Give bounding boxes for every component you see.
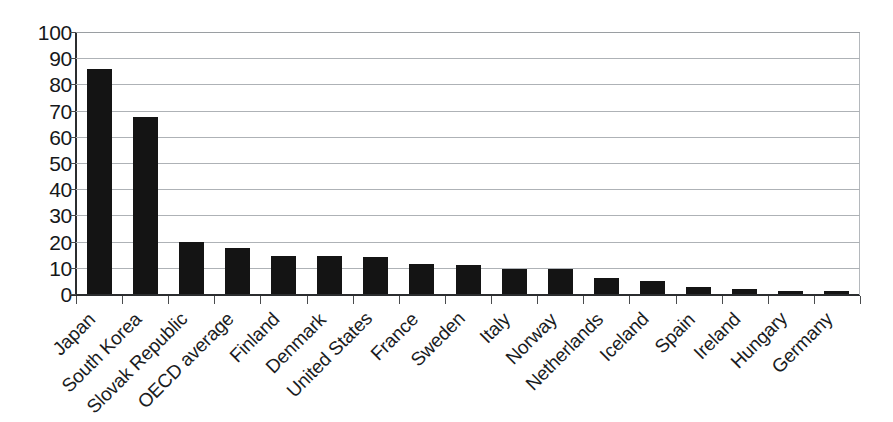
bar [87,69,112,294]
bar [271,256,296,294]
x-axis-tick-mark [76,296,77,304]
y-axis-tick-mark [70,215,76,216]
y-axis-tick-label: 90 [4,48,72,69]
x-axis-category-label: Sweden [406,308,469,371]
x-axis-tick-mark [814,296,815,304]
x-axis-category-label: Iceland [595,309,653,367]
bar [456,265,481,294]
plot-area [76,32,860,294]
y-axis-tick-mark [70,163,76,164]
y-axis: 1009080706050403020100 [0,0,72,422]
bar [502,269,527,294]
y-axis-tick-label: 0 [4,284,72,305]
bar [548,269,573,294]
x-axis-tick-mark [307,296,308,304]
gridline [76,32,860,33]
bar [409,264,434,294]
y-axis-tick-mark [70,58,76,59]
gridline [76,189,860,190]
bar-chart: 1009080706050403020100 JapanSouth KoreaS… [0,0,893,422]
y-axis-tick-label: 20 [4,231,72,252]
y-axis-tick-mark [70,32,76,33]
bar [179,242,204,294]
bar [594,278,619,294]
x-axis-category-label: United States [283,308,377,402]
x-axis-tick-mark [629,296,630,304]
x-axis-category-label: Germany [768,309,838,379]
gridline [76,163,860,164]
x-axis-tick-mark [445,296,446,304]
x-axis-tick-mark [168,296,169,304]
y-axis-tick-label: 80 [4,74,72,95]
x-axis-category-label: Slovak Republic [83,308,193,418]
bar [317,256,342,294]
gridline [76,111,860,112]
y-axis-tick-mark [70,242,76,243]
x-axis-category-label: Norway [501,308,561,368]
gridline [76,58,860,59]
y-axis-tick-mark [70,84,76,85]
bar [778,291,803,294]
x-axis-category-label: Italy [476,309,515,348]
bar [732,289,757,294]
y-axis-tick-label: 50 [4,153,72,174]
x-axis-line [70,294,860,296]
gridline [76,137,860,138]
x-axis-tick-mark [722,296,723,304]
x-axis-category-label: Ireland [690,309,746,365]
y-axis-tick-label: 30 [4,205,72,226]
gridline [76,215,860,216]
x-axis-tick-mark [491,296,492,304]
bar [686,287,711,294]
bar [225,248,250,294]
y-axis-tick-label: 10 [4,257,72,278]
x-axis-tick-mark [860,296,861,304]
y-axis-tick-label: 70 [4,100,72,121]
x-axis-tick-mark [353,296,354,304]
bar [363,257,388,294]
bar [133,117,158,294]
x-axis-tick-mark [122,296,123,304]
x-axis-category-label: Spain [650,309,699,358]
y-axis-tick-mark [70,137,76,138]
bar [640,281,665,294]
x-axis-tick-mark [399,296,400,304]
x-axis-category-label: OECD average [134,308,239,413]
x-axis-tick-mark [214,296,215,304]
y-axis-tick-mark [70,189,76,190]
y-axis-tick-mark [70,268,76,269]
x-axis-category-label: France [366,308,423,365]
y-axis-tick-label: 100 [4,22,72,43]
y-axis-tick-mark [70,294,76,295]
x-axis-tick-mark [537,296,538,304]
bar [824,291,849,294]
y-axis-tick-mark [70,111,76,112]
gridline [76,84,860,85]
x-axis-category-label: Denmark [261,309,330,378]
y-axis-tick-label: 40 [4,179,72,200]
x-axis-category-label: Finland [226,308,285,367]
x-axis-category-label: Hungary [727,308,792,373]
y-axis-tick-label: 60 [4,126,72,147]
x-axis-tick-mark [768,296,769,304]
x-axis-tick-mark [260,296,261,304]
x-axis-tick-mark [676,296,677,304]
x-axis-tick-mark [583,296,584,304]
x-axis-category-label: Netherlands [521,308,607,394]
